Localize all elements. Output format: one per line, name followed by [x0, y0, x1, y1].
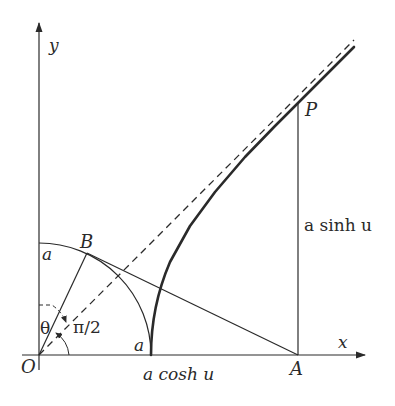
hyperbola-branch — [151, 47, 354, 355]
tangent-BA — [87, 253, 298, 355]
x-axis-label: x — [338, 332, 348, 352]
asymptote-dashed — [39, 40, 354, 355]
sinh-label: a sinh u — [304, 215, 372, 235]
point-P-label: P — [304, 99, 318, 120]
origin-label: O — [21, 356, 36, 377]
point-B-label: B — [79, 231, 93, 252]
cosh-label: a cosh u — [143, 364, 214, 384]
right-angle-label: π/2 — [73, 317, 101, 337]
radius-label-x: a — [134, 335, 144, 355]
point-A-label: A — [288, 358, 303, 379]
theta-label: θ — [40, 318, 50, 338]
y-axis-label: y — [48, 35, 59, 55]
hyperbola-diagram: y x O A B P a a θ π/2 a cosh u a sinh u — [0, 0, 395, 406]
radius-label-y: a — [42, 244, 52, 264]
